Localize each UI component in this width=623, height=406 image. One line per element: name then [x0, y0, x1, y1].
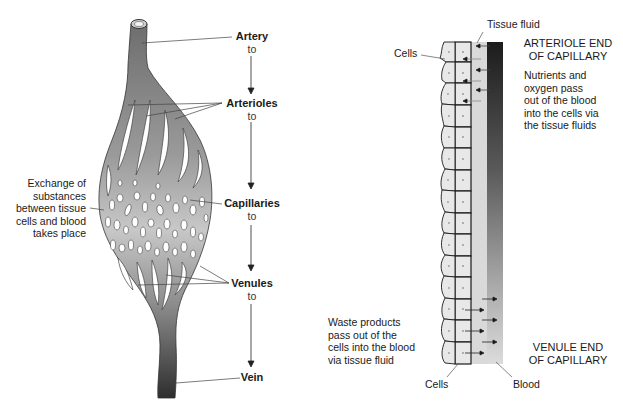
nutrients-note-line: the tissue fluids	[524, 119, 599, 132]
nutrients-note-line: Nutrients and	[524, 69, 599, 82]
arteriole-end-line: ARTERIOLE END	[520, 37, 616, 50]
label-blood: Blood	[513, 378, 540, 391]
nutrients-note-line: out of the blood	[524, 94, 599, 107]
waste-note-line: via tissue fluid	[328, 354, 415, 367]
label-tissue-fluid: Tissue fluid	[487, 18, 540, 31]
waste-note-line: Waste products	[328, 316, 415, 329]
nutrients-note-line: into the cells via	[524, 107, 599, 120]
venule-end-line: OF CAPILLARY	[520, 354, 616, 367]
arteriole-end-title: ARTERIOLE END OF CAPILLARY	[520, 37, 616, 63]
venule-end-line: VENULE END	[520, 341, 616, 354]
label-cells-bottom: Cells	[425, 378, 448, 391]
nutrients-note-line: oxygen pass	[524, 82, 599, 95]
waste-note: Waste products pass out of the cells int…	[328, 316, 415, 366]
label-cells-top: Cells	[394, 47, 417, 60]
nutrients-note: Nutrients and oxygen pass out of the blo…	[524, 69, 599, 132]
waste-note-line: pass out of the	[328, 329, 415, 342]
outer-cell-column	[440, 42, 455, 364]
venule-end-title: VENULE END OF CAPILLARY	[520, 341, 616, 367]
arteriole-end-line: OF CAPILLARY	[520, 50, 616, 63]
waste-note-line: cells into the blood	[328, 341, 415, 354]
